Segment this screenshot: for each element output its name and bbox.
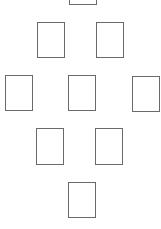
card-position-6 (132, 76, 160, 112)
card-position-2 (37, 22, 65, 58)
card-position-7 (36, 128, 64, 165)
card-position-4 (5, 75, 33, 111)
card-position-1 (69, 0, 97, 5)
card-position-8 (95, 128, 123, 165)
card-position-3 (96, 22, 124, 58)
card-position-9 (68, 182, 96, 218)
card-position-5 (68, 75, 96, 111)
